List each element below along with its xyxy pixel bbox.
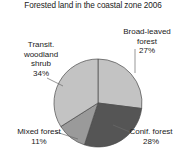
slice-label-text-line3: shrub (2, 59, 80, 69)
slice-value-transitional-woodland-shrub: 34% (2, 69, 80, 79)
slice-label-conif-forest: Conif. forest 28% (116, 127, 186, 146)
slice-value-broad-leaved-forest: 27% (108, 46, 186, 56)
slice-value-mixed-forest: 11% (2, 137, 76, 147)
slice-label-text-line1: Broad-leaved (108, 27, 186, 37)
slice-label-text-line1: Transit. (2, 40, 80, 50)
slice-label-mixed-forest: Mixed forest 11% (2, 127, 76, 146)
pie-chart-figure: Forested land in the coastal zone 2006 B… (0, 0, 186, 159)
slice-label-text-line1: Mixed forest (2, 127, 76, 137)
pie-slice-broad-leaved-forest[interactable] (98, 59, 142, 109)
slice-label-text-line2: woodland (2, 50, 80, 60)
slice-label-text-line2: forest (108, 37, 186, 47)
slice-value-conif-forest: 28% (116, 137, 186, 147)
slice-label-transitional-woodland-shrub: Transit. woodland shrub 34% (2, 40, 80, 78)
slice-label-text-line1: Conif. forest (116, 127, 186, 137)
slice-label-broad-leaved-forest: Broad-leaved forest 27% (108, 27, 186, 56)
